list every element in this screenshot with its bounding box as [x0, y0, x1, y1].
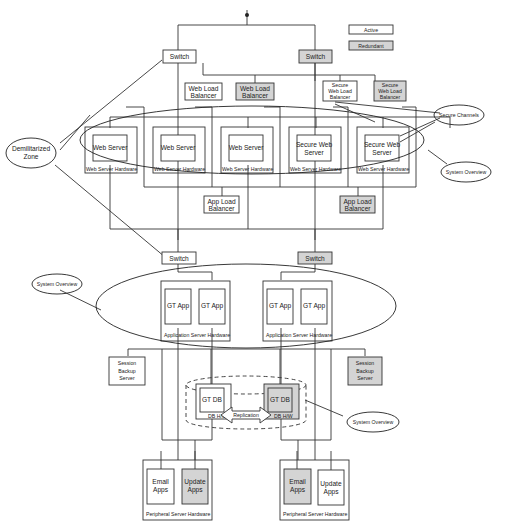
legend-redundant-label: Redundant [358, 43, 384, 49]
web-server-hardware-1[interactable]: Web Server Web Server Hardware [85, 127, 137, 173]
gt-db-active-label: GT DB [202, 396, 223, 403]
callout-secure-channels: Secure Channels [434, 105, 484, 125]
system-overview-label: System Overview [37, 281, 78, 287]
gt-db-redundant-label: GT DB [270, 396, 291, 403]
callout-system-overview-db: System Overview [347, 412, 399, 432]
peripheral-tier: Email Apps Update Apps Peripheral Server… [143, 460, 349, 520]
secure-channels-label: Secure Channels [439, 112, 479, 118]
hardware-label: Application Server Hardware [266, 332, 332, 338]
gt-app-label: GT App [201, 302, 224, 310]
callout-system-overview-web: System Overview [441, 162, 491, 182]
replication-label: Replication [233, 412, 259, 418]
gt-app-label: GT App [167, 302, 190, 310]
web-server-hardware-3[interactable]: Web Server Web Server Hardware [221, 127, 273, 173]
app-tier-overview-ellipse [96, 264, 396, 348]
hardware-label: Web Server Hardware [86, 166, 137, 172]
gt-app-label: GT App [303, 302, 326, 310]
db-tier: GT DB DB H/W GT DB DB H/W Replication [186, 376, 306, 429]
hardware-label: Peripheral Server Hardware [146, 511, 210, 517]
session-backup-label: Backup [118, 368, 135, 374]
system-overview-label: System Overview [353, 419, 394, 425]
alb-label: Balancer [208, 205, 235, 212]
application-server-hardware-2[interactable]: GT App GT App Application Server Hardwar… [263, 281, 332, 341]
app-label: Apps [290, 486, 306, 494]
web-tier: Switch Switch Web Load Balancer Web Load… [80, 50, 424, 213]
web-switch-redundant-label: Switch [306, 53, 326, 60]
app-label: Apps [187, 486, 203, 494]
web-switch-active-label: Switch [170, 53, 190, 60]
app-label: Email [152, 478, 169, 485]
db-hw-redundant-label: DB H/W [274, 413, 293, 419]
web-server-hardware-2[interactable]: Web Server Web Server Hardware [153, 127, 205, 173]
alb-label: Balancer [344, 205, 371, 212]
session-backup-label: Session [356, 360, 375, 366]
session-backup-label: Backup [356, 368, 373, 374]
gt-app-label: GT App [269, 302, 292, 310]
session-backup-label: Session [118, 360, 137, 366]
web-server-label: Web Server [229, 144, 264, 151]
lb-label: Web Load [189, 85, 219, 92]
hardware-label: Web Server Hardware [290, 166, 341, 172]
web-server-label: Server [304, 149, 324, 156]
app-label: Apps [323, 488, 339, 496]
legend: Active Redundant [349, 25, 393, 50]
network-architecture-diagram: Active Redundant Switch Switch Web Load … [0, 0, 506, 529]
peripheral-server-hardware-2[interactable]: Email Apps Update Apps Peripheral Server… [280, 460, 349, 520]
hardware-label: Peripheral Server Hardware [283, 511, 347, 517]
lb-label: Balancer [190, 92, 217, 99]
session-backup-label: Server [357, 375, 373, 381]
peripheral-server-hardware-1[interactable]: Email Apps Update Apps Peripheral Server… [143, 460, 212, 520]
app-switch-active-label: Switch [169, 255, 189, 262]
app-label: Email [289, 478, 306, 485]
uplink-node-icon [245, 13, 249, 17]
callout-system-overview-app: System Overview [32, 274, 82, 294]
app-tier: Switch Switch GT App GT App Application … [96, 252, 396, 385]
lb-label: Balancer [242, 92, 269, 99]
lb-label: Balancer [380, 94, 401, 100]
callout-dmz: Demilitarized Zone [6, 138, 56, 168]
lb-label: Balancer [330, 94, 351, 100]
app-label: Update [320, 480, 342, 488]
dmz-label: Demilitarized [12, 145, 50, 152]
application-server-hardware-1[interactable]: GT App GT App Application Server Hardwar… [161, 281, 230, 341]
app-label: Apps [153, 486, 169, 494]
lb-label: Web Load [240, 85, 270, 92]
web-server-label: Web Server [161, 144, 196, 151]
dmz-label: Zone [23, 153, 38, 160]
hardware-label: Web Server Hardware [358, 166, 409, 172]
hardware-label: Web Server Hardware [222, 166, 273, 172]
web-server-label: Secure Web [364, 141, 400, 148]
web-server-label: Web Server [93, 144, 128, 151]
app-label: Update [184, 478, 206, 486]
web-server-label: Secure Web [296, 141, 332, 148]
legend-active-label: Active [364, 27, 378, 33]
system-overview-label: System Overview [446, 169, 487, 175]
app-switch-redundant-label: Switch [305, 255, 325, 262]
hardware-label: Application Server Hardware [164, 332, 230, 338]
session-backup-label: Server [119, 375, 135, 381]
web-server-label: Server [372, 149, 392, 156]
